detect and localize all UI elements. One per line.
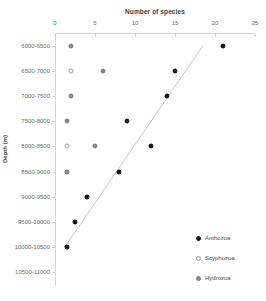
y-tick-label: 9000-9500 — [21, 194, 50, 200]
x-tick-label: 10 — [132, 20, 139, 26]
y-tick-label: 6000-6500 — [21, 43, 50, 49]
x-axis-title: Number of species — [55, 8, 255, 15]
legend-marker-icon-hydrozoa — [196, 276, 201, 281]
y-tick-label: 8000-8500 — [21, 143, 50, 149]
chart-legend: Anthozoa Scyphozoa Hydrozoa — [196, 228, 264, 288]
x-tick-label: 20 — [212, 20, 219, 26]
data-point-anthozoa — [65, 245, 70, 250]
data-point-anthozoa — [221, 43, 226, 48]
data-point-hydrozoa — [69, 94, 74, 99]
data-point-hydrozoa — [101, 68, 106, 73]
x-tick-label: 15 — [172, 20, 179, 26]
y-tick-label: 10500-11000 — [15, 269, 50, 275]
legend-label-hydrozoa: Hydrozoa — [205, 275, 231, 281]
x-tick-label: 5 — [93, 20, 96, 26]
legend-item-scyphozoa[interactable]: Scyphozoa — [196, 248, 264, 268]
y-tick-label: 6500-7000 — [21, 68, 50, 74]
y-axis-title: Depth (m) — [2, 126, 8, 172]
data-point-anthozoa — [125, 119, 130, 124]
y-tick-label: 7000-7500 — [21, 93, 50, 99]
legend-marker-icon-anthozoa — [196, 236, 201, 241]
y-tick-label: 7500-8000 — [21, 118, 50, 124]
data-point-hydrozoa — [65, 119, 70, 124]
legend-label-scyphozoa: Scyphozoa — [205, 255, 235, 261]
x-tick-label: 0 — [53, 20, 56, 26]
data-point-scyphozoa — [65, 144, 70, 149]
x-tick-label: 25 — [252, 20, 259, 26]
data-point-anthozoa — [85, 194, 90, 199]
data-point-anthozoa — [117, 169, 122, 174]
data-point-anthozoa — [173, 68, 178, 73]
legend-marker-icon-scyphozoa — [196, 256, 201, 261]
y-tick-label: 10000-10500 — [15, 244, 50, 250]
y-tick-label: 9500-10000 — [18, 219, 50, 225]
data-point-hydrozoa — [69, 43, 74, 48]
data-point-hydrozoa — [65, 169, 70, 174]
legend-item-anthozoa[interactable]: Anthozoa — [196, 228, 264, 248]
data-point-anthozoa — [73, 220, 78, 225]
data-point-hydrozoa — [93, 144, 98, 149]
x-tick-mark — [255, 34, 256, 37]
data-point-scyphozoa — [69, 68, 74, 73]
depth-species-scatter-chart: Number of species 0510152025 Depth (m) 6… — [0, 0, 266, 301]
legend-label-anthozoa: Anthozoa — [205, 235, 230, 241]
y-tick-label: 8500-9000 — [21, 169, 50, 175]
legend-item-hydrozoa[interactable]: Hydrozoa — [196, 268, 264, 288]
data-point-anthozoa — [165, 94, 170, 99]
data-point-anthozoa — [149, 144, 154, 149]
